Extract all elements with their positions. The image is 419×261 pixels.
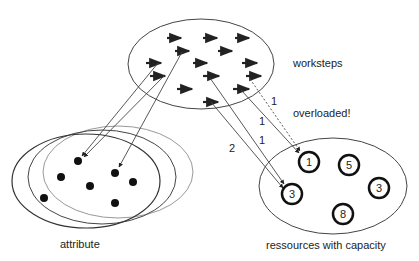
- attribute-label: attribute: [60, 238, 100, 250]
- worksteps-label: worksteps: [292, 57, 343, 69]
- svg-text:1: 1: [306, 156, 312, 168]
- attribute-set: [12, 126, 193, 228]
- diagram-canvas: worksteps overloaded! attribute 1 1: [0, 0, 419, 261]
- svg-text:5: 5: [346, 159, 352, 171]
- resource-node: 3: [369, 178, 389, 198]
- connection-label: 1: [259, 115, 265, 127]
- resources-label: ressources with capacity: [266, 239, 386, 251]
- svg-text:8: 8: [340, 208, 346, 220]
- resource-node: 1: [299, 152, 319, 172]
- worksteps-set: [128, 19, 274, 109]
- svg-text:3: 3: [376, 182, 382, 194]
- resource-node: 8: [333, 204, 353, 224]
- connection-label: 2: [229, 142, 235, 154]
- resource-node: 3: [282, 184, 302, 204]
- overloaded-label: overloaded!: [293, 107, 351, 119]
- svg-text:3: 3: [289, 188, 295, 200]
- connection-label: 1: [259, 134, 265, 146]
- connection-label-dotted: 1: [271, 95, 277, 107]
- resource-node: 5: [339, 155, 359, 175]
